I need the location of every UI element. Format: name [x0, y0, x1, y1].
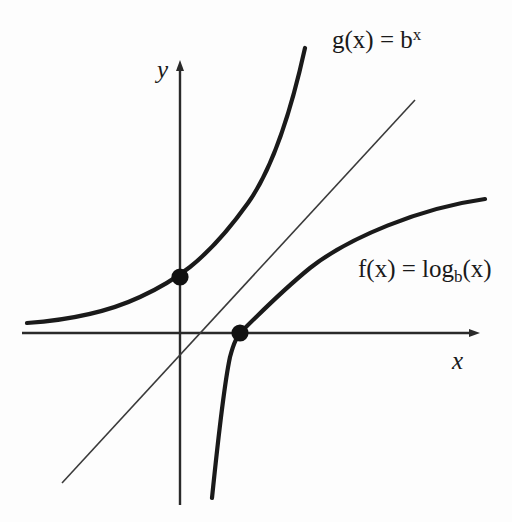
- point-logarithm-x-intercept: [231, 324, 248, 341]
- logarithm-label-suffix: (x): [463, 255, 492, 282]
- exponential-label-exponent: x: [413, 25, 422, 44]
- exponential-curve: [27, 48, 305, 323]
- logarithm-curve: [212, 199, 485, 498]
- logarithm-label-subscript: b: [454, 267, 463, 286]
- exponential-label-base: g(x) = b: [332, 26, 413, 53]
- math-figure: g(x) = bx f(x) = logb(x) y x: [0, 0, 512, 522]
- y-axis-label: y: [157, 57, 168, 82]
- exponential-function-label: g(x) = bx: [332, 26, 421, 52]
- identity-line-y-equals-x: [62, 100, 415, 483]
- x-axis-label: x: [452, 348, 463, 373]
- point-exponential-y-intercept: [171, 268, 188, 285]
- logarithm-function-label: f(x) = logb(x): [358, 256, 492, 285]
- logarithm-label-prefix: f(x) = log: [358, 255, 454, 282]
